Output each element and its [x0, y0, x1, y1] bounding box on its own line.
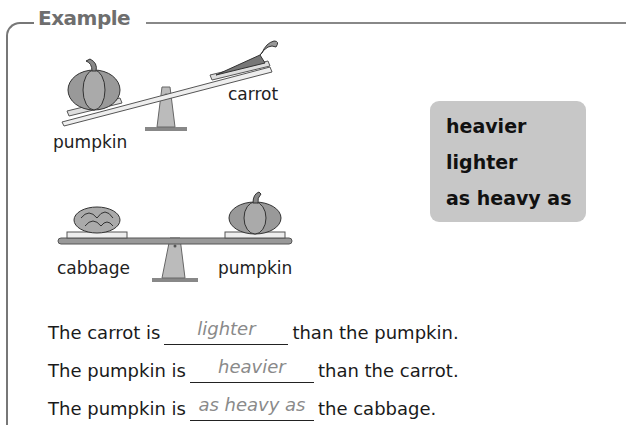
sentence-1: The carrot islighterthan the pumpkin.: [48, 322, 459, 345]
cabbage-label: cabbage: [57, 258, 130, 278]
pumpkin-icon: [68, 59, 120, 110]
frame-top-border: [146, 22, 626, 24]
word-as-heavy-as: as heavy as: [446, 187, 572, 209]
word-heavier: heavier: [446, 115, 526, 137]
frame-corner: [6, 22, 34, 54]
word-lighter: lighter: [446, 151, 518, 173]
frame-left-border: [6, 50, 8, 425]
pumpkin-icon-2: [229, 192, 281, 234]
section-title: Example: [38, 6, 130, 30]
sentence-3: The pumpkin isas heavy asthe cabbage.: [48, 398, 436, 421]
pumpkin-label: pumpkin: [53, 132, 127, 152]
answer-blank-3[interactable]: as heavy as: [190, 398, 314, 421]
answer-blank-2[interactable]: heavier: [190, 360, 314, 383]
cabbage-icon: [74, 207, 120, 233]
answer-blank-1[interactable]: lighter: [164, 322, 288, 345]
word-bank: heavier lighter as heavy as: [430, 101, 586, 222]
pumpkin-label-2: pumpkin: [218, 258, 292, 278]
carrot-label: carrot: [228, 84, 278, 104]
sentence-2: The pumpkin isheavierthan the carrot.: [48, 360, 459, 383]
